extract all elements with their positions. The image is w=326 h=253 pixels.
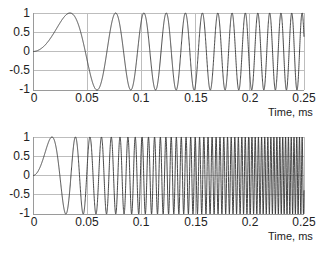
y-tick-label: -1 [0, 83, 30, 95]
top-chirp-chart: 1 0.5 0 -0.5 -1 0 0.05 0.1 0.15 0.2 0.25… [0, 0, 326, 125]
y-tick-label: -0.5 [0, 188, 30, 200]
x-tick-label: 0 [31, 92, 38, 104]
x-tick-label: 0.15 [184, 216, 207, 228]
y-tick-label: 1 [0, 7, 30, 19]
y-tick-label: -1 [0, 207, 30, 219]
y-tick-label: 0 [0, 169, 30, 181]
x-tick-label: 0.25 [292, 92, 315, 104]
x-axis-title: Time, ms [268, 230, 313, 242]
y-tick-label: 0.5 [0, 150, 30, 162]
x-tick-label: 0.1 [133, 92, 150, 104]
x-axis-title: Time, ms [268, 106, 313, 118]
x-tick-label: 0.2 [242, 92, 259, 104]
y-tick-label: 1 [0, 131, 30, 143]
bottom-chirp-chart: 1 0.5 0 -0.5 -1 0 0.05 0.1 0.15 0.2 0.25… [0, 124, 326, 253]
x-tick-label: 0.25 [292, 216, 315, 228]
x-tick-label: 0.15 [184, 92, 207, 104]
x-tick-label: 0.1 [133, 216, 150, 228]
y-tick-label: -0.5 [0, 64, 30, 76]
x-tick-label: 0 [31, 216, 38, 228]
y-tick-label: 0.5 [0, 26, 30, 38]
x-tick-label: 0.05 [75, 92, 98, 104]
x-tick-label: 0.2 [242, 216, 259, 228]
x-tick-label: 0.05 [75, 216, 98, 228]
y-tick-label: 0 [0, 45, 30, 57]
